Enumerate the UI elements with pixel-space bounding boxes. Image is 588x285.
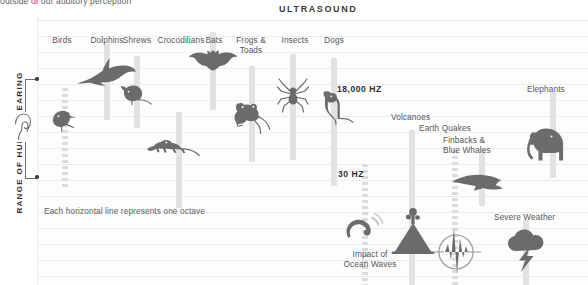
frequency-marker-lower: 30 HZ xyxy=(338,169,364,179)
octave-line xyxy=(37,276,588,277)
octave-line xyxy=(37,196,588,197)
annotation-earthquakes: Earth Quakes xyxy=(419,124,471,134)
octave-line xyxy=(37,132,588,133)
column-label-dogs: Dogs xyxy=(318,36,350,46)
range-bar-birds xyxy=(62,88,68,190)
ear-icon xyxy=(12,112,32,142)
column-label-bats: Bats xyxy=(199,36,229,46)
annotation-severe-weather: Severe Weather xyxy=(494,213,555,223)
spider-icon xyxy=(277,78,309,114)
shrew-icon xyxy=(118,82,154,106)
bird-icon xyxy=(50,108,82,134)
wave-icon xyxy=(344,211,384,243)
octave-footnote: Each horizontal line represents one octa… xyxy=(44,206,205,216)
annotation-volcanoes: Volcanoes xyxy=(391,113,430,123)
bracket-dot-bottom xyxy=(35,175,38,178)
annotation-whales: Finbacks & Blue Whales xyxy=(443,136,491,155)
whale-icon xyxy=(452,172,508,194)
column-label-insects: Insects xyxy=(275,36,315,46)
infographic-canvas: outside of our auditory perception ULTRA… xyxy=(0,0,588,285)
octave-line xyxy=(37,20,588,21)
octave-line xyxy=(37,116,588,117)
octave-line xyxy=(37,164,588,165)
dog-icon xyxy=(316,90,356,126)
elephant-icon xyxy=(526,125,576,165)
bat-icon xyxy=(188,48,238,74)
annotation-elephants: Elephants xyxy=(527,85,565,95)
column-label-shrews: Shrews xyxy=(117,36,157,46)
column-label-birds: Birds xyxy=(40,36,84,46)
frog-icon xyxy=(233,101,273,135)
octave-line xyxy=(37,52,588,53)
axis-title-human-hearing: RANGE OF HUMAN HEARING xyxy=(15,58,24,228)
octave-line xyxy=(37,148,588,149)
bracket-dot-top xyxy=(35,77,38,80)
seismograph-icon xyxy=(430,226,482,278)
ultrasound-heading: ULTRASOUND xyxy=(279,4,357,14)
crocodile-icon xyxy=(144,137,200,163)
intro-text: outside of our auditory perception xyxy=(0,0,131,6)
storm-cloud-icon xyxy=(502,229,550,273)
